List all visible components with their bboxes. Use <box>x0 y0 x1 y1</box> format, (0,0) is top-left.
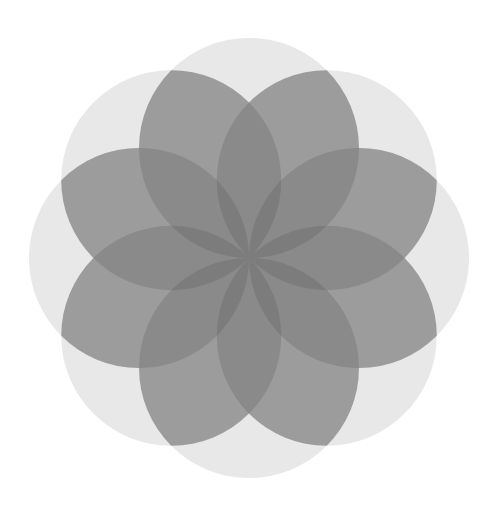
flower-diagram <box>0 0 494 519</box>
